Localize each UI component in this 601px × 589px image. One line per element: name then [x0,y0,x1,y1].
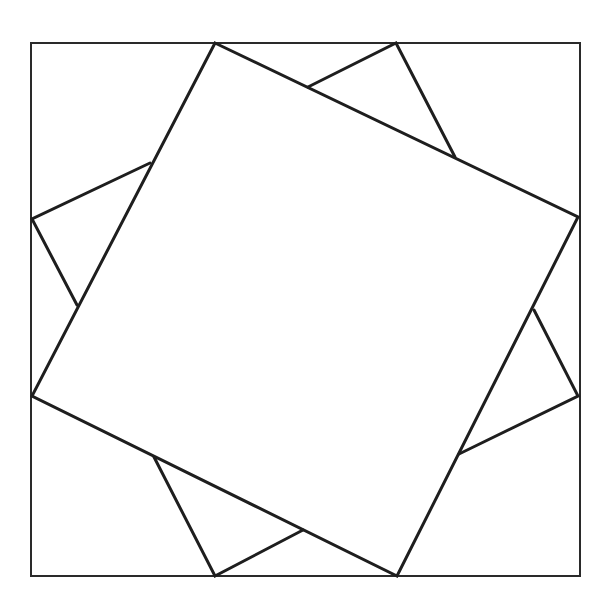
front-rotated-square [32,43,578,576]
back-square-corner-1 [308,43,455,157]
geometric-diagram [0,0,601,589]
back-square-corner-3 [154,457,303,576]
back-square-corner-2 [459,310,578,454]
outer-square-frame [31,43,580,576]
back-square-visible-corners [32,43,578,576]
